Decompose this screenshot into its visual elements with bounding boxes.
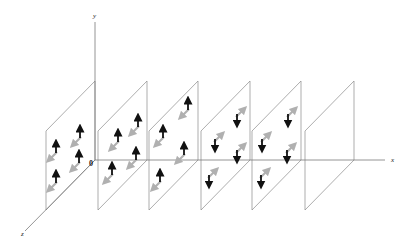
z-axis [25, 160, 95, 231]
plane-6 [305, 81, 354, 210]
plane-3 [149, 81, 198, 210]
y-axis-label: y [92, 12, 97, 20]
origin-label: 0 [89, 159, 93, 168]
spin-diagonal-arrow-icon [72, 162, 80, 170]
planes-layer [46, 81, 354, 210]
spin-arrows-layer [49, 100, 295, 190]
spin-diagonal-arrow-icon [181, 109, 189, 117]
axes-layer: x y z 0 [20, 12, 395, 238]
spin-planes-diagram: x y z 0 [0, 0, 412, 249]
spin-diagonal-arrow-icon [49, 182, 57, 190]
spin-diagonal-arrow-icon [153, 181, 161, 189]
spin-diagonal-arrow-icon [131, 126, 139, 134]
x-axis-label: x [390, 156, 395, 164]
spin-diagonal-arrow-icon [177, 154, 185, 162]
z-axis-label: z [20, 230, 24, 238]
plane-1 [46, 81, 95, 210]
spin-diagonal-arrow-icon [49, 152, 57, 160]
spin-diagonal-arrow-icon [156, 137, 164, 145]
spin-diagonal-arrow-icon [105, 174, 113, 182]
spin-diagonal-arrow-icon [73, 137, 81, 145]
spin-diagonal-arrow-icon [111, 141, 119, 149]
plane-2 [98, 81, 147, 210]
